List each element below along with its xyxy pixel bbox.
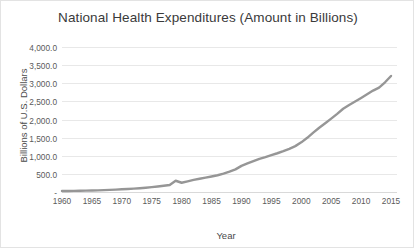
- chart-container: National Health Expenditures (Amount in …: [0, 0, 414, 248]
- data-series: [62, 76, 391, 191]
- plot-area: -500.01,000.01,500.02,000.02,500.03,000.…: [1, 1, 414, 248]
- y-axis-tick-labels: -500.01,000.01,500.02,000.02,500.03,000.…: [29, 43, 57, 198]
- series-line: [62, 76, 391, 191]
- x-tick-label: 1980: [172, 196, 191, 206]
- x-tick-label: 2005: [322, 196, 341, 206]
- x-tick-label: 1975: [142, 196, 161, 206]
- y-tick-label: 2,000.0: [29, 116, 57, 126]
- x-tick-label: 1960: [53, 196, 72, 206]
- x-tick-label: 2000: [292, 196, 311, 206]
- y-tick-label: 500.0: [36, 170, 57, 180]
- y-tick-label: 1,500.0: [29, 134, 57, 144]
- x-tick-label: 2010: [352, 196, 371, 206]
- y-tick-label: 2,500.0: [29, 97, 57, 107]
- x-tick-label: 1990: [232, 196, 251, 206]
- y-tick-label: 4,000.0: [29, 43, 57, 53]
- y-tick-label: 1,000.0: [29, 152, 57, 162]
- x-tick-label: 1985: [202, 196, 221, 206]
- x-tick-label: 2015: [382, 196, 401, 206]
- y-tick-label: 3,500.0: [29, 61, 57, 71]
- x-tick-label: 1965: [83, 196, 102, 206]
- x-tick-label: 1995: [262, 196, 281, 206]
- x-tick-label: 1970: [113, 196, 132, 206]
- x-axis-tick-labels: 1960196519701975198019851990199520002005…: [53, 196, 401, 206]
- y-tick-label: 3,000.0: [29, 79, 57, 89]
